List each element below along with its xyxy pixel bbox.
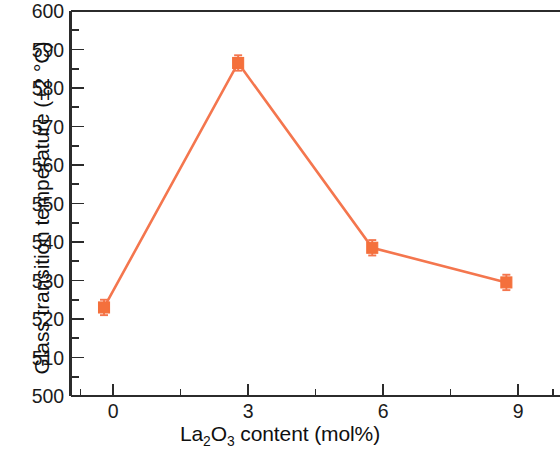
x-tick-label-0: 0 [93,400,133,423]
axis-frame [71,11,560,396]
data-series-line [104,63,506,307]
chart-figure: 600 590 580 570 560 550 540 530 520 510 … [0,0,560,457]
y-axis-title: Glass transition temperature (±2 °C) [30,18,54,398]
axis-left-top-bottom [71,11,560,396]
error-bars [100,55,510,315]
plot-canvas [0,0,560,457]
data-point-marker [501,277,512,288]
x-axis-title-sub-3: 3 [227,433,235,449]
x-axis-title: La2O3 content (mol%) [0,422,560,446]
x-tick-label-3: 3 [228,400,268,423]
data-point-marker [367,242,378,253]
x-axis-title-la: La [180,422,203,445]
data-point-marker [99,302,110,313]
x-tick-label-6: 6 [363,400,403,423]
data-point-marker [233,57,244,68]
data-markers [99,57,512,312]
y-axis-title-unit: °C) [30,42,53,73]
x-axis-title-o: O [211,422,227,445]
x-axis-title-rest: content (mol%) [235,422,381,445]
x-tick-label-9: 9 [498,400,538,423]
y-axis-title-prefix: Glass transition temperature (±2 [30,72,53,374]
x-axis-title-sub-2: 2 [203,433,211,449]
